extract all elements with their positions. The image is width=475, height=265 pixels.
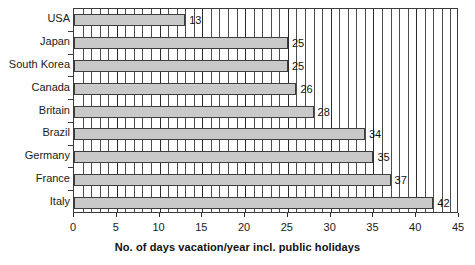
x-tick-label: 15 [195, 222, 207, 233]
bar [74, 83, 296, 95]
x-tick-mark [287, 213, 288, 217]
category-label: Italy [50, 196, 70, 207]
bar-value-label: 35 [377, 152, 389, 163]
bar-row: 42 [74, 197, 457, 209]
x-tick-mark [330, 213, 331, 217]
category-tick [68, 190, 73, 191]
x-tick-label: 35 [366, 222, 378, 233]
category-axis: USAJapanSouth KoreaCanadaBritainBrazilGe… [0, 0, 70, 265]
bar-row: 25 [74, 60, 457, 72]
bar-row: 28 [74, 106, 457, 118]
category-label: France [36, 173, 70, 184]
x-tick-mark [415, 213, 416, 217]
x-tick-label: 45 [452, 222, 464, 233]
bar-value-label: 25 [292, 60, 304, 71]
category-tick [68, 99, 73, 100]
x-tick-mark [73, 213, 74, 217]
bar-row: 13 [74, 14, 457, 26]
category-label: Britain [39, 105, 70, 116]
bar [74, 197, 433, 209]
x-tick-mark [244, 213, 245, 217]
category-tick [68, 54, 73, 55]
bar-value-label: 37 [395, 174, 407, 185]
x-tick-mark [201, 213, 202, 217]
x-tick-label: 5 [113, 222, 119, 233]
category-tick [68, 31, 73, 32]
bar [74, 14, 185, 26]
x-tick-label: 30 [324, 222, 336, 233]
bar-row: 26 [74, 83, 457, 95]
x-tick-label: 20 [238, 222, 250, 233]
bar-value-label: 13 [189, 15, 201, 26]
bar-row: 25 [74, 37, 457, 49]
bar [74, 37, 288, 49]
x-axis-title: No. of days vacation/year incl. public h… [0, 241, 475, 253]
bar-value-label: 26 [300, 83, 312, 94]
x-tick-mark [372, 213, 373, 217]
x-tick-mark [116, 213, 117, 217]
category-label: South Korea [9, 59, 70, 70]
x-tick-label: 0 [70, 222, 76, 233]
x-tick-mark [458, 213, 459, 217]
x-tick-label: 40 [409, 222, 421, 233]
category-tick [68, 122, 73, 123]
category-tick [68, 145, 73, 146]
category-tick [68, 76, 73, 77]
bar-value-label: 28 [318, 106, 330, 117]
bar [74, 174, 391, 186]
plot-area: 132525262834353742 [73, 8, 458, 213]
x-tick-label: 25 [281, 222, 293, 233]
bar-row: 34 [74, 128, 457, 140]
category-tick [68, 167, 73, 168]
x-tick-label: 10 [152, 222, 164, 233]
bar-value-label: 34 [369, 129, 381, 140]
bar [74, 128, 365, 140]
category-label: Japan [40, 36, 70, 47]
horizontal-bar-chart: USAJapanSouth KoreaCanadaBritainBrazilGe… [0, 0, 475, 265]
bar [74, 60, 288, 72]
category-label: Canada [31, 82, 70, 93]
category-label: Brazil [42, 127, 70, 138]
category-label: USA [47, 13, 70, 24]
bar [74, 151, 373, 163]
bar-row: 37 [74, 174, 457, 186]
bar-value-label: 25 [292, 38, 304, 49]
category-label: Germany [25, 150, 70, 161]
bar-row: 35 [74, 151, 457, 163]
x-tick-mark [159, 213, 160, 217]
bar [74, 106, 314, 118]
bar-value-label: 42 [437, 197, 449, 208]
